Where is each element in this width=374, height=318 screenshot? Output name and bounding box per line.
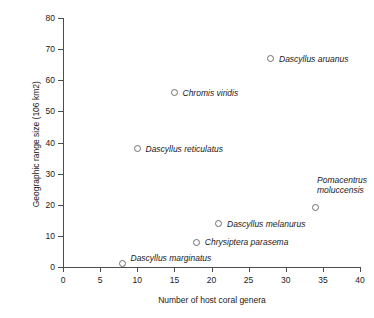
x-tick-label-15: 15 bbox=[162, 276, 186, 285]
y-tick-80 bbox=[58, 18, 63, 19]
plot-area: 0 10 20 30 40 50 60 70 80 0 5 10 15 20 2… bbox=[0, 0, 374, 318]
data-point-dascyllus-reticulatus[interactable] bbox=[134, 145, 141, 152]
x-tick-15 bbox=[174, 267, 175, 272]
data-point-chrysiptera-parasema[interactable] bbox=[193, 239, 200, 246]
y-axis-title: Geographic range size (106 km2) bbox=[32, 34, 41, 254]
point-label-dascyllus-marginatus: Dascyllus marginatus bbox=[131, 254, 212, 264]
point-label-chromis-viridis: Chromis viridis bbox=[183, 89, 239, 99]
y-axis-line bbox=[63, 18, 64, 268]
y-tick-40 bbox=[58, 143, 63, 144]
x-axis-title: Number of host coral genera bbox=[63, 296, 361, 305]
x-tick-label-10: 10 bbox=[125, 276, 149, 285]
x-tick-label-5: 5 bbox=[88, 276, 112, 285]
point-label-dascyllus-aruanus: Dascyllus aruanus bbox=[279, 55, 348, 65]
data-point-chromis-viridis[interactable] bbox=[171, 89, 178, 96]
x-tick-label-25: 25 bbox=[237, 276, 261, 285]
point-label-pomacentrus-line2: moluccensis bbox=[317, 185, 364, 195]
y-tick-label-0: 0 bbox=[33, 263, 55, 272]
data-point-dascyllus-aruanus[interactable] bbox=[267, 55, 274, 62]
x-tick-0 bbox=[63, 267, 64, 272]
x-tick-label-0: 0 bbox=[51, 276, 75, 285]
x-tick-35 bbox=[323, 267, 324, 272]
x-tick-5 bbox=[100, 267, 101, 272]
point-label-pomacentrus-line1: Pomacentrus bbox=[317, 175, 367, 185]
x-tick-20 bbox=[212, 267, 213, 272]
data-point-pomacentrus-moluccensis[interactable] bbox=[312, 204, 319, 211]
x-tick-label-40: 40 bbox=[348, 276, 372, 285]
x-tick-label-20: 20 bbox=[200, 276, 224, 285]
data-point-dascyllus-melanurus[interactable] bbox=[215, 220, 222, 227]
x-tick-label-30: 30 bbox=[274, 276, 298, 285]
x-tick-40 bbox=[360, 267, 361, 272]
x-tick-label-35: 35 bbox=[311, 276, 335, 285]
point-label-dascyllus-reticulatus: Dascyllus reticulatus bbox=[146, 145, 223, 155]
scatter-plot-figure: 0 10 20 30 40 50 60 70 80 0 5 10 15 20 2… bbox=[0, 0, 374, 318]
y-tick-10 bbox=[58, 236, 63, 237]
y-tick-label-80: 80 bbox=[33, 14, 55, 23]
point-label-chrysiptera-parasema: Chrysiptera parasema bbox=[205, 238, 289, 248]
y-tick-60 bbox=[58, 80, 63, 81]
y-tick-70 bbox=[58, 49, 63, 50]
y-tick-50 bbox=[58, 111, 63, 112]
x-tick-25 bbox=[249, 267, 250, 272]
y-tick-30 bbox=[58, 174, 63, 175]
x-tick-10 bbox=[137, 267, 138, 272]
x-tick-30 bbox=[286, 267, 287, 272]
y-tick-20 bbox=[58, 205, 63, 206]
point-label-dascyllus-melanurus: Dascyllus melanurus bbox=[227, 220, 305, 230]
point-label-pomacentrus-moluccensis: Pomacentrusmoluccensis bbox=[317, 176, 374, 196]
